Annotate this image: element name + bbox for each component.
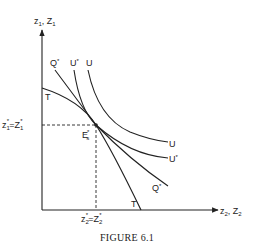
label-Q-star-bottom: Q* xyxy=(152,183,162,193)
label-U-star-top: U* xyxy=(70,58,80,68)
x-axis-label: z2, Z2 xyxy=(220,206,242,217)
label-T-bottom: T xyxy=(131,199,137,209)
label-T-top: T xyxy=(45,92,51,102)
label-U-star-bottom: U* xyxy=(169,154,179,164)
label-equilibrium: E*s xyxy=(82,129,90,141)
y-tick-label: z1*=Z1* xyxy=(2,118,24,131)
x-tick-label: z2*=Z2* xyxy=(81,212,103,225)
curve-Q-star xyxy=(55,70,168,186)
label-Q-star-top: Q* xyxy=(50,58,60,68)
figure-caption: FIGURE 6.1 xyxy=(100,232,154,243)
svg-text:z1, Z1: z1, Z1 xyxy=(34,16,56,27)
curve-T xyxy=(42,88,141,210)
label-U-top: U xyxy=(86,58,93,68)
label-U-bottom: U xyxy=(169,139,176,149)
y-axis-label: z1, Z1 xyxy=(34,16,56,27)
figure-6-1: z1, Z1 z2, Z2 Q* U* U T U U* Q* T E*s z1… xyxy=(0,0,255,245)
equilibrium-point xyxy=(94,123,98,127)
svg-text:z2, Z2: z2, Z2 xyxy=(220,206,242,217)
